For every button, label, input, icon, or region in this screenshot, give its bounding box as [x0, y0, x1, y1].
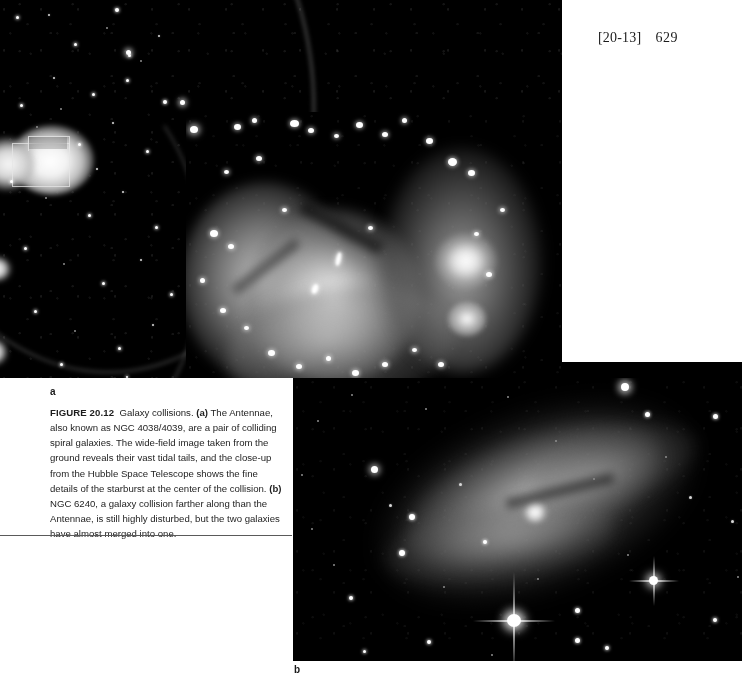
figure-number: FIGURE 20.12	[50, 407, 114, 418]
caption-marker-a: (a)	[196, 407, 208, 418]
caption-body-a: The Antennae, also known as NGC 4038/403…	[50, 407, 277, 494]
ngc4039-nucleus	[436, 234, 496, 288]
folio-bracket: [20-13]	[598, 30, 641, 45]
page-folio: [20-13]629	[598, 30, 678, 46]
textbook-page: [20-13]629 a FIGURE 20.12 Galaxy collisi…	[0, 0, 742, 685]
ngc4039-secondary-knot	[448, 302, 486, 336]
figure-caption-block: a FIGURE 20.12 Galaxy collisions. (a) Th…	[0, 378, 293, 685]
caption-divider-rule	[0, 535, 292, 536]
hubble-closeup-image	[186, 112, 562, 395]
caption-marker-b: (b)	[269, 483, 281, 494]
caption-body-b: NGC 6240, a galaxy collision farther alo…	[50, 498, 280, 539]
panel-label-b: b	[294, 664, 300, 675]
bright-star-upper-right	[126, 50, 131, 55]
figure-panel-b-image	[293, 378, 742, 661]
bright-star-mid	[180, 100, 185, 105]
hst-panel-corner-star	[190, 126, 198, 133]
page-margin-white	[562, 0, 742, 362]
hst-box-fill	[29, 137, 67, 149]
figure-title: Galaxy collisions.	[119, 407, 193, 418]
panel-label-a: a	[50, 386, 56, 397]
folio-number: 629	[655, 30, 678, 45]
figure-caption-text: FIGURE 20.12 Galaxy collisions. (a) The …	[50, 405, 285, 541]
bright-foreground-star	[507, 614, 521, 627]
